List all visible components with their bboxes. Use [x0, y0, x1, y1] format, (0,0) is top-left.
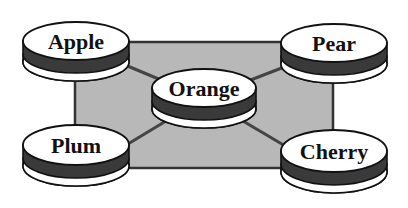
fruit-diagram: Apple Pear Plum Cherry Orange — [0, 0, 408, 208]
node-label-orange: Orange — [169, 76, 240, 101]
node-label-cherry: Cherry — [300, 139, 368, 164]
node-label-apple: Apple — [48, 29, 104, 54]
node-label-pear: Pear — [312, 31, 356, 56]
node-label-plum: Plum — [51, 133, 101, 158]
